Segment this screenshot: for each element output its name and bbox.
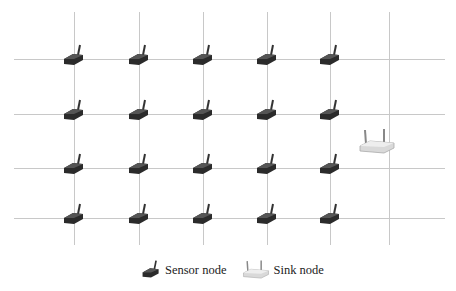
sensor-node-icon [254,98,280,124]
sensor-node-icon [126,152,152,178]
sensor-node-icon [254,202,280,228]
sensor-node-icon [317,202,343,228]
sensor-node-icon [254,43,280,69]
sensor-node-icon [317,98,343,124]
sink-node-icon [242,259,270,281]
sensor-node-icon [61,43,87,69]
legend-sensor: Sensor node [140,259,226,281]
sensor-node-icon [126,98,152,124]
sensor-node-icon [61,152,87,178]
sensor-node-icon [140,259,162,281]
legend: Sensor node Sink node [140,258,340,282]
sensor-node-icon [126,43,152,69]
sensor-node-icon [126,202,152,228]
sensor-node-icon [254,152,280,178]
sensor-node-icon [61,202,87,228]
sensor-node-icon [61,98,87,124]
legend-sink: Sink node [242,259,323,281]
sensor-node-icon [317,152,343,178]
sink-node-icon [358,128,396,156]
legend-sink-label: Sink node [273,263,323,278]
sensor-node-icon [190,98,216,124]
sensor-node-icon [190,202,216,228]
sensor-node-icon [317,43,343,69]
sensor-node-icon [190,43,216,69]
legend-sensor-label: Sensor node [165,263,226,278]
sensor-node-icon [190,152,216,178]
